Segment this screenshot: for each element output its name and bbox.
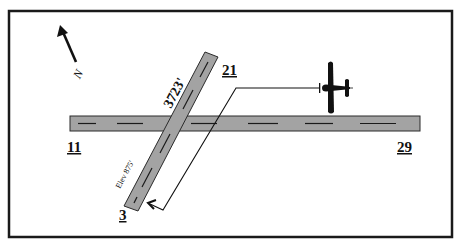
runway-diagram: N 11 29 21 3 3723' Elev 875' bbox=[0, 0, 458, 245]
runway-end-21: 21 bbox=[222, 62, 237, 78]
runway-end-11: 11 bbox=[67, 139, 81, 155]
runway-11-29 bbox=[70, 116, 420, 131]
runway-end-29: 29 bbox=[397, 139, 412, 155]
runway-end-3: 3 bbox=[119, 207, 127, 223]
